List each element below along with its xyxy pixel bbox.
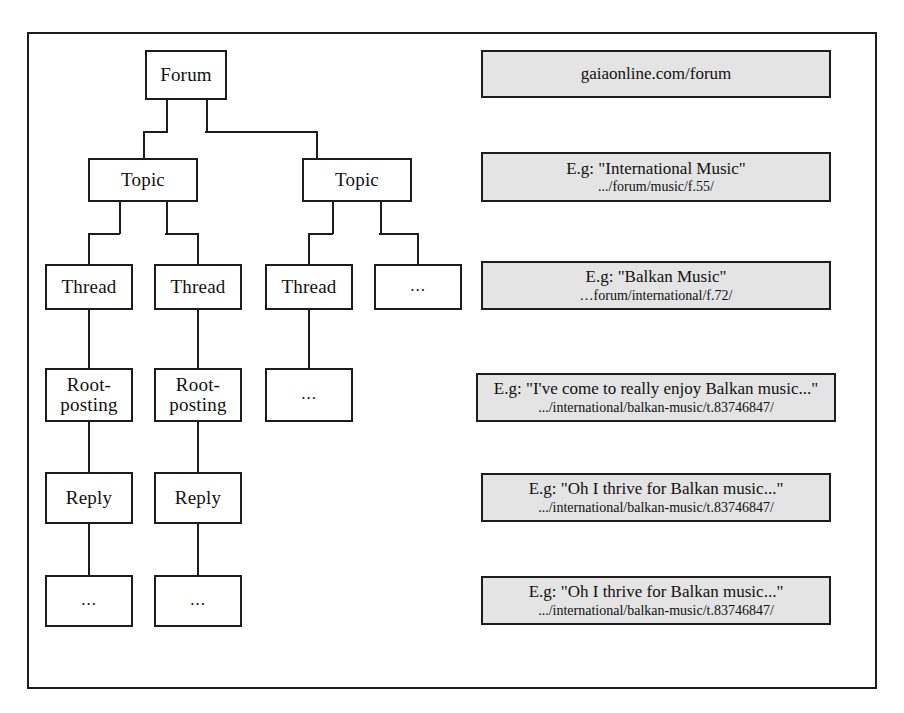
node-thread-2-label: Thread: [171, 277, 226, 298]
annotation-topic-example-url: .../forum/music/f.55/: [598, 179, 714, 195]
node-rootposting-1: Root- posting: [45, 368, 133, 422]
node-more-2-ellipsis: ...: [154, 575, 242, 627]
connector-forum-left-elbow: [143, 131, 168, 133]
node-more-1-label: ...: [81, 591, 97, 609]
annotation-reply-example-url: .../international/balkan-music/t.8374684…: [538, 500, 774, 516]
connector-topic1-drop: [143, 131, 145, 159]
annotation-rootposting-example: E.g: "I've come to really enjoy Balkan m…: [476, 373, 836, 422]
node-thread-2: Thread: [154, 264, 242, 310]
node-rootposting-2-label-line2: posting: [169, 395, 226, 415]
node-forum: Forum: [145, 50, 227, 100]
connector-topic2-drop: [316, 131, 318, 159]
connector-thread4-drop: [417, 233, 419, 264]
node-more-2-label: ...: [190, 591, 206, 609]
connector-topic2-left-elbow: [308, 233, 333, 235]
node-rootposting-2-label-line1: Root-: [176, 375, 220, 395]
annotation-more-example-url: .../international/balkan-music/t.8374684…: [538, 603, 774, 619]
node-forum-label: Forum: [160, 65, 212, 86]
annotation-forum-url: gaiaonline.com/forum: [481, 50, 831, 98]
annotation-thread-example-url: …forum/international/f.72/: [580, 288, 733, 304]
connector-forum-right-stub: [206, 100, 208, 132]
connector-rootposting2-to-reply2: [197, 422, 199, 472]
node-rootposting-1-label-line1: Root-: [67, 375, 111, 395]
connector-rootposting1-to-reply1: [88, 422, 90, 472]
node-rootposting-2: Root- posting: [154, 368, 242, 422]
node-reply-1: Reply: [45, 472, 133, 524]
connector-thread1-to-rootposting1: [88, 310, 90, 368]
node-topic-2-label: Topic: [335, 170, 379, 191]
connector-topic1-left-stub: [119, 202, 121, 234]
connector-topic1-right-elbow: [165, 233, 199, 235]
connector-forum-right-elbow: [205, 131, 317, 133]
node-rootposting-3-ellipsis: ...: [265, 368, 353, 422]
annotation-thread-example-title: E.g: "Balkan Music": [586, 267, 727, 287]
connector-reply2-to-more2: [197, 524, 199, 575]
connector-thread2-drop: [197, 233, 199, 264]
annotation-reply-example-title: E.g: "Oh I thrive for Balkan music...": [529, 479, 784, 499]
annotation-topic-example-title: E.g: "International Music": [566, 159, 746, 179]
connector-thread3-to-ellipsis: [308, 310, 310, 368]
annotation-rootposting-example-url: .../international/balkan-music/t.8374684…: [538, 400, 774, 416]
connector-reply1-to-more1: [88, 524, 90, 575]
node-thread-4-ellipsis: ...: [374, 264, 462, 310]
node-thread-1-label: Thread: [62, 277, 117, 298]
connector-topic1-left-elbow: [88, 233, 120, 235]
node-thread-3: Thread: [265, 264, 353, 310]
connector-topic2-right-stub: [380, 202, 382, 234]
node-reply-2-label: Reply: [175, 488, 221, 509]
annotation-reply-example: E.g: "Oh I thrive for Balkan music..." .…: [481, 473, 831, 522]
node-rootposting-1-label-line2: posting: [60, 395, 117, 415]
connector-topic2-left-stub: [332, 202, 334, 234]
annotation-forum-url-title: gaiaonline.com/forum: [581, 64, 732, 84]
annotation-thread-example: E.g: "Balkan Music" …forum/international…: [481, 261, 831, 310]
connector-forum-left-stub: [166, 100, 168, 132]
connector-thread3-drop: [308, 233, 310, 264]
connector-thread2-to-rootposting2: [197, 310, 199, 368]
diagram-canvas: Forum Topic Topic Thread Thread Thread .…: [0, 0, 904, 713]
node-more-1-ellipsis: ...: [45, 575, 133, 627]
node-thread-1: Thread: [45, 264, 133, 310]
node-reply-1-label: Reply: [66, 488, 112, 509]
annotation-more-example: E.g: "Oh I thrive for Balkan music..." .…: [481, 576, 831, 625]
node-topic-2: Topic: [302, 158, 412, 202]
node-thread-4-label: ...: [410, 277, 426, 295]
node-thread-3-label: Thread: [282, 277, 337, 298]
annotation-topic-example: E.g: "International Music" .../forum/mus…: [481, 152, 831, 202]
node-rootposting-3-label: ...: [301, 385, 317, 403]
node-reply-2: Reply: [154, 472, 242, 524]
node-topic-1-label: Topic: [121, 170, 165, 191]
connector-thread1-drop: [88, 233, 90, 264]
annotation-rootposting-example-title: E.g: "I've come to really enjoy Balkan m…: [494, 379, 818, 399]
node-topic-1: Topic: [88, 158, 198, 202]
connector-topic1-right-stub: [166, 202, 168, 234]
connector-topic2-right-elbow: [379, 233, 419, 235]
annotation-more-example-title: E.g: "Oh I thrive for Balkan music...": [529, 582, 784, 602]
